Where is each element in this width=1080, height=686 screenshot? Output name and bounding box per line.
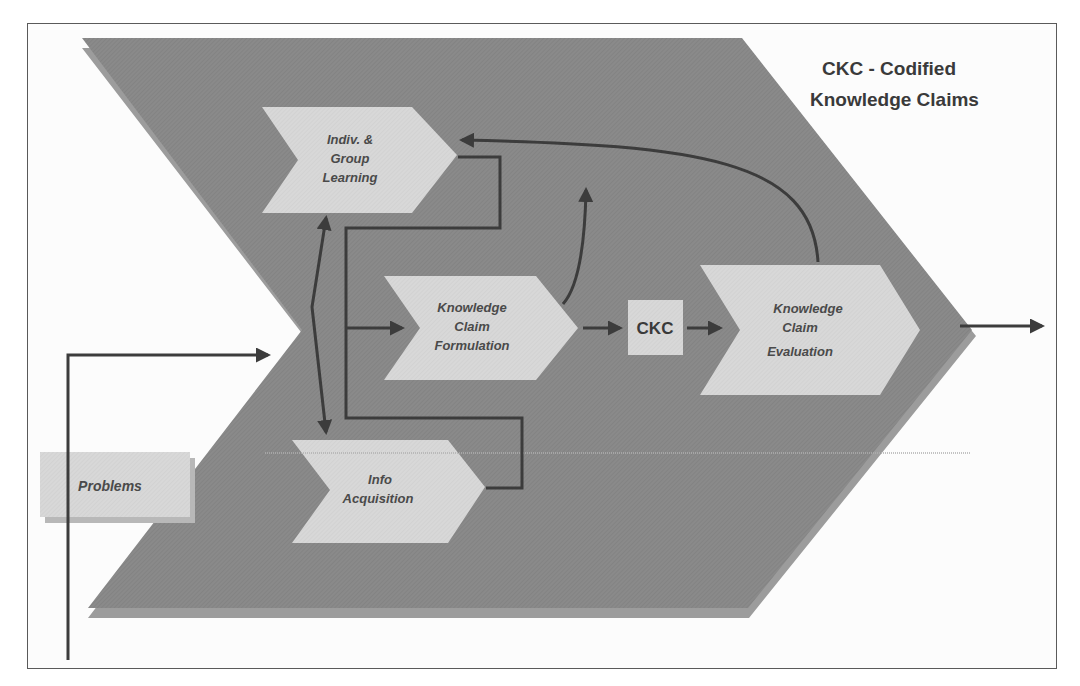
- learning-line-1: Indiv. &: [327, 132, 373, 147]
- formulation-line-3: Formulation: [434, 338, 509, 353]
- evaluation-line-3: Evaluation: [767, 344, 833, 359]
- evaluation-line-1: Knowledge: [773, 301, 842, 316]
- formulation-line-2: Claim: [454, 319, 490, 334]
- legend-line-2: Knowledge Claims: [810, 89, 979, 110]
- learning-line-3: Learning: [323, 170, 378, 185]
- knowledge-life-cycle-diagram: CKC - Codified Knowledge Claims Problems…: [0, 0, 1080, 686]
- formulation-line-1: Knowledge: [437, 300, 506, 315]
- problems-label: Problems: [78, 478, 142, 494]
- legend-line-1: CKC - Codified: [822, 58, 956, 79]
- acquisition-line-2: Acquisition: [342, 491, 414, 506]
- ckc-label: CKC: [637, 319, 674, 338]
- evaluation-line-2: Claim: [782, 320, 818, 335]
- learning-line-2: Group: [331, 151, 370, 166]
- acquisition-line-1: Info: [368, 472, 392, 487]
